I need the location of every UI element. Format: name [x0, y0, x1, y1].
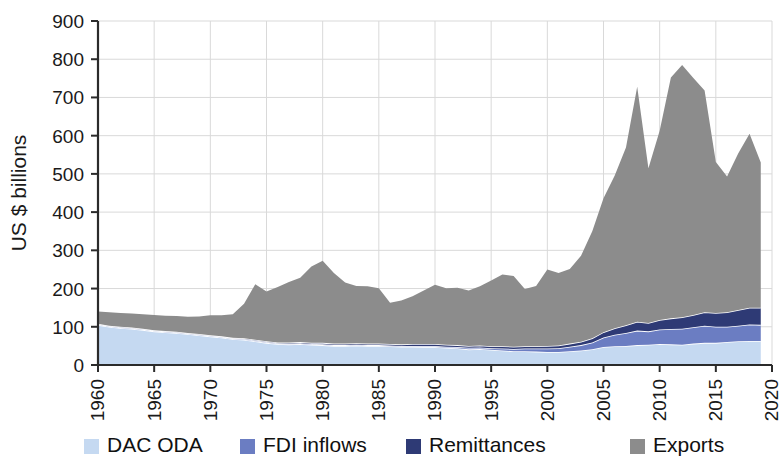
y-tick-label: 400 [52, 202, 84, 223]
y-tick-label: 500 [52, 164, 84, 185]
chart-legend: DAC ODAFDI inflowsRemittancesExports [84, 433, 724, 456]
x-tick-label: 1995 [481, 379, 502, 421]
y-tick-label: 700 [52, 87, 84, 108]
legend-label-exports: Exports [653, 433, 724, 456]
x-tick-label: 2000 [537, 379, 558, 421]
y-tick-label: 600 [52, 126, 84, 147]
y-axis-title: US $ billions [7, 135, 30, 252]
y-tick-label: 300 [52, 240, 84, 261]
legend-swatch-exports [630, 439, 645, 454]
y-axis-title-text: US $ billions [7, 135, 30, 252]
x-axis-tick-labels: 1960196519701975198019851990199520002005… [87, 379, 781, 421]
y-axis-tick-labels: 0100200300400500600700800900 [52, 11, 84, 376]
y-tick-label: 200 [52, 279, 84, 300]
legend-label-remittances: Remittances [429, 433, 546, 456]
y-tick-label: 900 [52, 11, 84, 32]
x-tick-label: 2020 [761, 379, 781, 421]
legend-swatch-remittances [406, 439, 421, 454]
legend-label-fdi-inflows: FDI inflows [263, 433, 367, 456]
x-tick-label: 2010 [649, 379, 670, 421]
chart-canvas: 0100200300400500600700800900 19601965197… [0, 0, 781, 470]
y-tick-label: 800 [52, 49, 84, 70]
x-tick-label: 1980 [312, 379, 333, 421]
legend-swatch-dac-oda [84, 439, 99, 454]
x-tick-label: 1975 [256, 379, 277, 421]
area-series-group [98, 65, 761, 365]
x-tick-label: 1965 [144, 379, 165, 421]
x-tick-label: 1990 [424, 379, 445, 421]
x-tick-label: 2015 [705, 379, 726, 421]
legend-swatch-fdi-inflows [240, 439, 255, 454]
y-tick-label: 0 [73, 355, 84, 376]
x-tick-label: 1985 [368, 379, 389, 421]
x-tick-label: 1960 [87, 379, 108, 421]
area-series-exports [98, 65, 761, 347]
stacked-area-chart: 0100200300400500600700800900 19601965197… [0, 0, 781, 470]
legend-label-dac-oda: DAC ODA [107, 433, 203, 456]
x-tick-label: 1970 [200, 379, 221, 421]
y-tick-label: 100 [52, 317, 84, 338]
x-tick-label: 2005 [593, 379, 614, 421]
